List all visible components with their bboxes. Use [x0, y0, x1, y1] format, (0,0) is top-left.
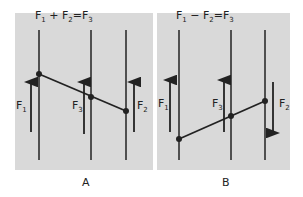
label-f3-a: F3: [72, 99, 83, 114]
label-f2-a: F2: [137, 99, 148, 114]
label-f1-b: F1: [158, 97, 169, 112]
label-f3-b: F3: [212, 97, 223, 112]
force-diagram: [0, 0, 303, 197]
equation-b: F1 − F2=F3: [176, 9, 234, 24]
panel-a-drawing: [31, 30, 134, 160]
caption-b: B: [222, 176, 230, 189]
label-f2-b: F2: [279, 97, 290, 112]
caption-a: A: [82, 176, 90, 189]
label-f1-a: F1: [16, 99, 27, 114]
panel-b-drawing: [170, 30, 273, 160]
equation-a: F1 + F2=F3: [35, 9, 93, 24]
